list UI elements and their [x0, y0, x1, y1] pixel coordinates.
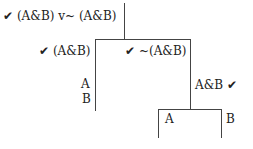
sub-right-line: [221, 109, 222, 138]
right-branch-line: [190, 39, 191, 109]
right-child-node: A&B ✔: [195, 78, 237, 92]
branch-line: [95, 39, 191, 40]
checkmark-icon: ✔: [125, 44, 135, 58]
sub-branch-line: [158, 109, 222, 110]
left-formula: (A&B): [53, 44, 91, 58]
left-child-b: B: [82, 92, 91, 106]
root-node: ✔ (A&B) v~ (A&B): [3, 9, 116, 23]
sub-left-line: [158, 109, 159, 138]
sub-branch-a: A: [165, 112, 174, 126]
left-branch-line: [95, 39, 96, 111]
right-node: ✔ ~(A&B): [125, 44, 186, 58]
right-child-formula: A&B: [195, 78, 223, 92]
root-formula: (A&B) v~ (A&B): [17, 9, 117, 23]
right-formula: ~(A&B): [139, 44, 187, 58]
sub-branch-b: B: [226, 112, 235, 126]
checkmark-icon: ✔: [39, 44, 49, 58]
checkmark-icon: ✔: [227, 78, 237, 92]
left-node: ✔ (A&B): [39, 44, 90, 58]
trunk-line: [124, 3, 125, 40]
left-child-a: A: [81, 77, 90, 91]
checkmark-icon: ✔: [3, 9, 13, 23]
